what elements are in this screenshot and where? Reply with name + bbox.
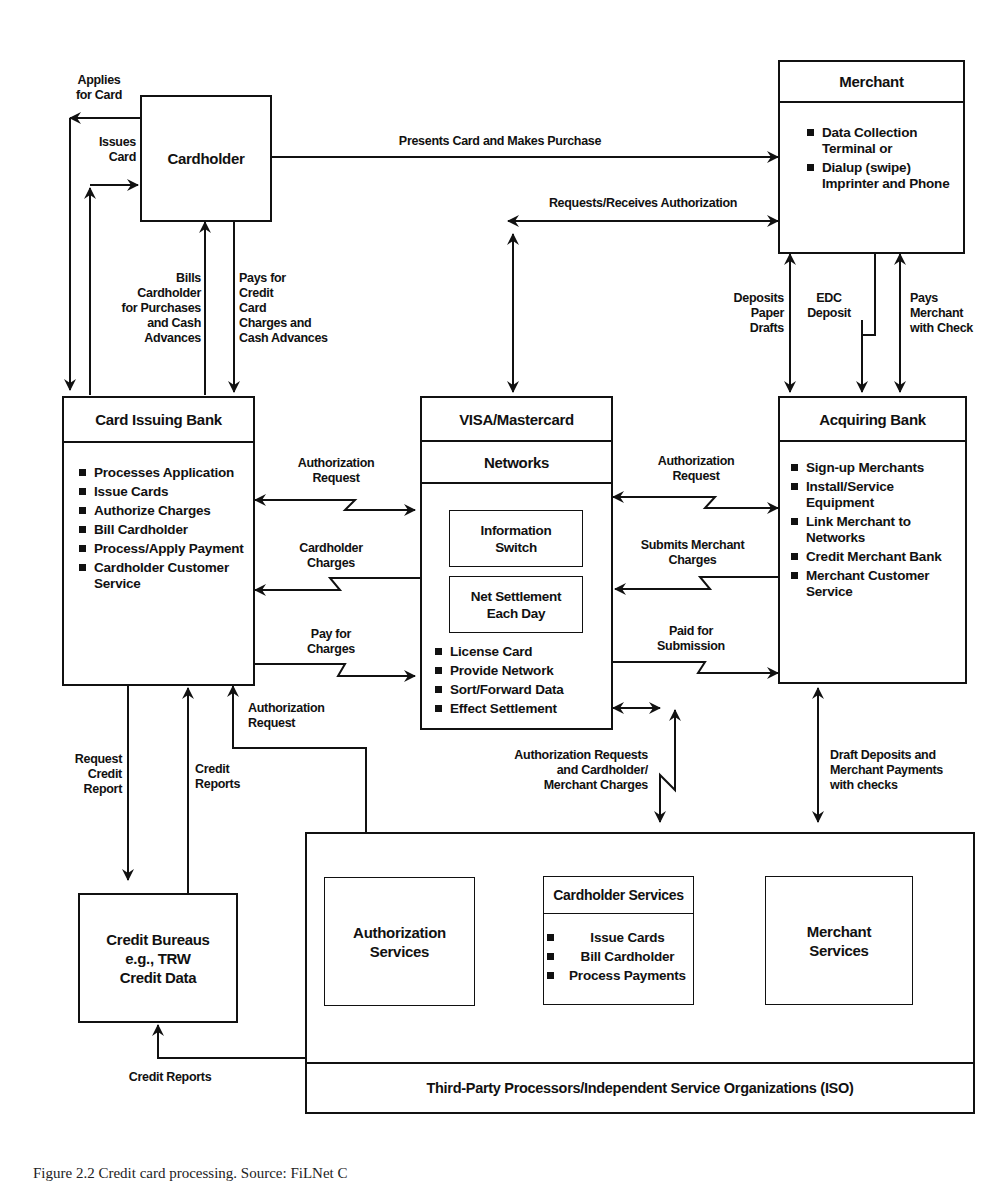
bank-item: Issue Cards	[76, 484, 247, 500]
card-issuing-bank-title: Card Issuing Bank	[64, 398, 253, 443]
bank-item: Cardholder Customer Service	[76, 560, 247, 592]
acquiring-item: Link Merchant to Networks	[788, 514, 961, 546]
networks-items: License Card Provide Network Sort/Forwar…	[432, 644, 564, 720]
label-auth-request-iso: Authorization Request	[248, 701, 368, 731]
network-item: Provide Network	[432, 663, 564, 679]
merchant-node: Merchant Data Collection Terminal or Dia…	[778, 60, 965, 254]
bank-item: Authorize Charges	[76, 503, 247, 519]
iso-footer: Third-Party Processors/Independent Servi…	[307, 1062, 973, 1112]
network-item: License Card	[432, 644, 564, 660]
merchant-item: Data Collection Terminal or	[804, 125, 955, 157]
label-edc-deposit: EDC Deposit	[800, 291, 858, 321]
label-submits-merchant-charges: Submits Merchant Charges	[620, 538, 765, 568]
cardholder-service-item: Process Payments	[544, 968, 693, 984]
label-request-credit-report: Request Credit Report	[50, 752, 122, 797]
merchant-services-label: Merchant Services	[807, 922, 871, 960]
label-deposits-paper-drafts: Deposits Paper Drafts	[690, 291, 784, 336]
label-pays-merchant-check: Pays Merchant with Check	[910, 291, 1007, 336]
label-pays-for-credit: Pays for Credit Card Charges and Cash Ad…	[239, 271, 379, 346]
cardholder-service-item: Bill Cardholder	[544, 949, 693, 965]
merchant-title: Merchant	[780, 62, 963, 103]
network-item: Sort/Forward Data	[432, 682, 564, 698]
authorization-services-label: Authorization Services	[353, 923, 446, 961]
merchant-items: Data Collection Terminal or Dialup (swip…	[780, 103, 963, 192]
acquiring-bank-node: Acquiring Bank Sign-up Merchants Install…	[778, 396, 967, 684]
label-applies-for-card: Applies for Card	[64, 73, 134, 103]
label-auth-requests-charges: Authorization Requests and Cardholder/ M…	[420, 748, 648, 793]
merchant-item: Dialup (swipe) Imprinter and Phone	[804, 160, 955, 192]
network-item: Effect Settlement	[432, 701, 564, 717]
label-draft-deposits: Draft Deposits and Merchant Payments wit…	[830, 748, 1007, 793]
cardholder-services-title: Cardholder Services	[544, 877, 693, 914]
acquiring-item: Credit Merchant Bank	[788, 549, 961, 565]
bank-item: Processes Application	[76, 465, 247, 481]
card-issuing-bank-items: Processes Application Issue Cards Author…	[64, 443, 253, 592]
acquiring-item: Merchant Customer Service	[788, 568, 961, 600]
networks-title: VISA/Mastercard	[422, 398, 611, 442]
cardholder-services-items: Issue Cards Bill Cardholder Process Paym…	[544, 914, 693, 984]
label-auth-request-left: Authorization Request	[276, 456, 396, 486]
net-settlement-label: Net Settlement Each Day	[471, 588, 561, 622]
information-switch-label: Information Switch	[481, 522, 552, 556]
acquiring-item: Install/Service Equipment	[788, 479, 961, 511]
label-credit-reports-bottom: Credit Reports	[110, 1070, 230, 1085]
cardholder-service-item: Issue Cards	[544, 930, 693, 946]
net-settlement-box: Net Settlement Each Day	[449, 576, 583, 633]
label-requests-receives-auth: Requests/Receives Authorization	[508, 196, 778, 211]
cardholder-services-box: Cardholder Services Issue Cards Bill Car…	[543, 876, 694, 1005]
acquiring-bank-title: Acquiring Bank	[780, 398, 965, 442]
cardholder-title: Cardholder	[167, 149, 244, 168]
acquiring-item: Sign-up Merchants	[788, 460, 961, 476]
networks-subtitle: Networks	[422, 442, 611, 484]
merchant-services-box: Merchant Services	[765, 876, 913, 1005]
label-presents-card: Presents Card and Makes Purchase	[360, 134, 640, 149]
credit-bureau-node: Credit Bureaus e.g., TRW Credit Data	[78, 893, 238, 1023]
figure-caption: Figure 2.2 Credit card processing. Sourc…	[33, 1165, 348, 1182]
cardholder-node: Cardholder	[140, 95, 272, 222]
credit-bureau-title: Credit Bureaus e.g., TRW Credit Data	[106, 930, 209, 987]
label-paid-for-submission: Paid for Submission	[636, 624, 746, 654]
label-auth-request-right: Authorization Request	[636, 454, 756, 484]
label-pay-for-charges: Pay for Charges	[276, 627, 386, 657]
authorization-services-box: Authorization Services	[324, 877, 475, 1006]
bank-item: Bill Cardholder	[76, 522, 247, 538]
iso-container: Authorization Services Cardholder Servic…	[305, 832, 975, 1114]
acquiring-bank-items: Sign-up Merchants Install/Service Equipm…	[780, 442, 965, 600]
card-issuing-bank-node: Card Issuing Bank Processes Application …	[62, 396, 255, 686]
bank-item: Process/Apply Payment	[76, 541, 247, 557]
information-switch-box: Information Switch	[449, 510, 583, 567]
label-cardholder-charges: Cardholder Charges	[276, 541, 386, 571]
label-credit-reports-up: Credit Reports	[195, 762, 275, 792]
label-bills-cardholder: Bills Cardholder for Purchases and Cash …	[100, 271, 201, 346]
label-issues-card: Issues Card	[80, 135, 136, 165]
networks-node: VISA/Mastercard Networks Information Swi…	[420, 396, 613, 730]
